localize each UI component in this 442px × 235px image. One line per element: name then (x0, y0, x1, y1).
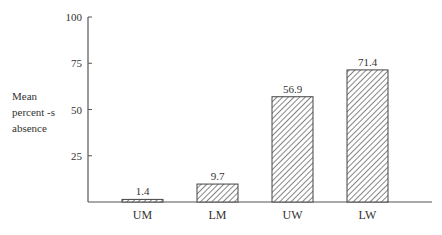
y-tick-label: 50 (71, 104, 83, 116)
y-axis-label-line: absence (12, 120, 55, 136)
y-axis-label: Mean percent -s absence (12, 88, 55, 136)
category-label: LW (359, 208, 377, 222)
value-label: 71.4 (358, 56, 378, 68)
y-axis-label-line: Mean (12, 88, 55, 104)
bar-lw (347, 70, 388, 202)
value-label: 1.4 (136, 185, 150, 197)
bar-um (122, 199, 163, 202)
bars: 1.4UM9.7LM56.9UW71.4LW (122, 56, 388, 222)
value-label: 9.7 (211, 170, 225, 182)
value-label: 56.9 (283, 83, 303, 95)
y-tick-label: 75 (71, 57, 83, 69)
y-tick-label: 25 (71, 150, 83, 162)
bar-lm (197, 184, 238, 202)
bar-chart: 255075100 1.4UM9.7LM56.9UW71.4LW (0, 0, 442, 235)
category-label: UM (133, 208, 153, 222)
y-tick-label: 100 (66, 11, 83, 23)
category-label: LM (209, 208, 227, 222)
y-axis-label-line: percent -s (12, 104, 55, 120)
bar-uw (272, 97, 313, 202)
category-label: UW (283, 208, 304, 222)
